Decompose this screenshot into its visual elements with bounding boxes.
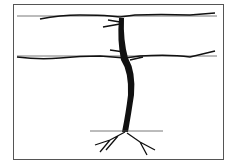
roots [95,132,155,155]
trunk [118,18,134,132]
grapevine-illustration [0,0,235,167]
lower-cordon [17,51,215,59]
